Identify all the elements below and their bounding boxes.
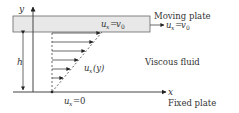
svg-text:=0: =0 bbox=[73, 96, 86, 106]
moving-plate bbox=[13, 16, 150, 32]
velocity-profile-line bbox=[52, 32, 102, 92]
bottom-velocity-label: u x =0 bbox=[64, 96, 86, 107]
height-label: h bbox=[17, 57, 23, 67]
velocity-profile-label: u x (y) bbox=[84, 63, 104, 74]
svg-text:(y): (y) bbox=[93, 63, 104, 73]
fixed-plate-label: Fixed plate bbox=[168, 98, 216, 108]
couette-flow-diagram: y x h Moving plate Fixed plate Viscous f… bbox=[0, 0, 239, 113]
viscous-fluid-label: Viscous fluid bbox=[144, 57, 200, 67]
plate-velocity-outside-label: u x = v 0 bbox=[166, 20, 190, 31]
svg-text:0: 0 bbox=[121, 23, 125, 30]
y-axis-label: y bbox=[18, 4, 25, 14]
x-axis-label: x bbox=[168, 87, 173, 97]
origin-point bbox=[51, 91, 54, 94]
svg-text:0: 0 bbox=[186, 24, 190, 31]
